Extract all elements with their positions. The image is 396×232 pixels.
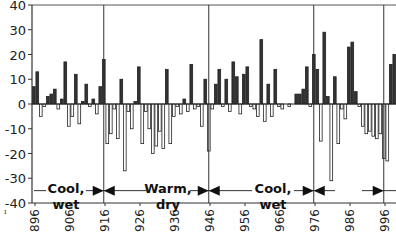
x-tick-label: 1976 — [308, 209, 322, 232]
bar — [225, 79, 228, 104]
regime-label-3-line1: Cool, — [255, 181, 292, 196]
bar — [228, 104, 231, 111]
bar — [263, 104, 266, 121]
plot-frame — [32, 5, 396, 203]
bar — [158, 104, 161, 131]
arrow-head-left-icon — [314, 186, 325, 196]
bar — [130, 104, 133, 129]
bar — [256, 104, 259, 116]
bar — [155, 104, 158, 146]
bar — [116, 104, 119, 139]
bar — [354, 92, 357, 104]
bar — [162, 104, 165, 149]
bar — [109, 104, 112, 134]
x-tick-label: 1916 — [98, 209, 112, 232]
bar — [50, 94, 53, 104]
y-tick-label: 40 — [9, 0, 26, 13]
y-tick-label: -10 — [5, 122, 26, 137]
bar — [64, 62, 67, 104]
bar — [361, 104, 364, 126]
x-tick-label: 1996 — [378, 209, 392, 232]
bar — [92, 99, 95, 104]
bar — [151, 104, 154, 154]
bar-series — [32, 32, 395, 180]
bar — [319, 104, 322, 141]
arrow-head-right-icon — [303, 186, 314, 196]
bar — [239, 104, 242, 114]
bar — [67, 104, 70, 126]
regime-label-1-line1: Cool, — [48, 181, 85, 196]
bar — [316, 69, 319, 104]
bar — [211, 104, 214, 109]
regime-label-1-line2: wet — [52, 197, 79, 212]
bar — [32, 87, 35, 104]
bar — [260, 40, 263, 104]
bar — [141, 104, 144, 144]
bar — [368, 104, 371, 131]
bar — [302, 89, 305, 104]
bar — [179, 104, 182, 114]
bar — [172, 104, 175, 116]
bar — [144, 104, 147, 111]
arrow-head-left-icon — [209, 186, 220, 196]
bar — [57, 104, 60, 109]
x-tick-label: 1966 — [273, 209, 287, 232]
bar — [246, 67, 249, 104]
x-tick-label: 1946 — [203, 209, 217, 232]
bar — [326, 97, 329, 104]
y-tick-label: -20 — [5, 147, 26, 162]
bar — [305, 67, 308, 104]
bar — [60, 99, 63, 104]
bar — [74, 74, 77, 104]
y-tick-label: 20 — [9, 48, 26, 63]
bar — [193, 104, 196, 109]
bar — [365, 104, 368, 134]
y-tick-label: 0 — [18, 97, 26, 112]
bar — [235, 77, 238, 104]
bar — [281, 104, 284, 109]
bar — [340, 104, 343, 109]
bar — [169, 104, 172, 144]
bar — [298, 94, 301, 104]
bar — [333, 77, 336, 104]
bar — [123, 104, 126, 171]
bar — [386, 104, 389, 161]
bar — [137, 67, 140, 104]
bar — [347, 47, 350, 104]
bar — [190, 64, 193, 104]
x-tick-label: 1926 — [133, 209, 147, 232]
arrow-head-left-icon — [104, 186, 115, 196]
x-tick-label: 1936 — [168, 209, 182, 232]
bar — [85, 84, 88, 104]
y-tick-label: 10 — [9, 72, 26, 87]
x-tick-label: 1896 — [28, 209, 42, 232]
regime-label-3-line2: wet — [259, 197, 286, 212]
bar — [375, 104, 378, 139]
bar — [330, 104, 333, 181]
bar — [39, 104, 42, 116]
bar — [253, 104, 256, 109]
bar — [204, 79, 207, 104]
y-axis: 403020100-10-20-30-40 — [5, 0, 32, 211]
bar — [274, 69, 277, 104]
stray-mark: ı — [4, 207, 7, 216]
bar — [183, 99, 186, 104]
bar — [95, 104, 98, 114]
bar — [351, 42, 354, 104]
bar — [372, 104, 375, 136]
bar — [36, 72, 39, 104]
regime-label-2-line2: dry — [156, 197, 181, 212]
bar — [53, 89, 56, 104]
bar — [337, 104, 340, 144]
y-tick-label: -30 — [5, 171, 26, 186]
bar — [200, 104, 203, 126]
y-tick-label: 30 — [9, 23, 26, 38]
x-tick-label: 1956 — [238, 209, 252, 232]
bar — [218, 69, 221, 104]
bar — [148, 104, 151, 129]
bar — [267, 84, 270, 104]
bar — [379, 104, 382, 134]
bar — [78, 104, 81, 124]
regime-label-2-line1: Warm, — [144, 181, 192, 196]
bar — [46, 97, 49, 104]
